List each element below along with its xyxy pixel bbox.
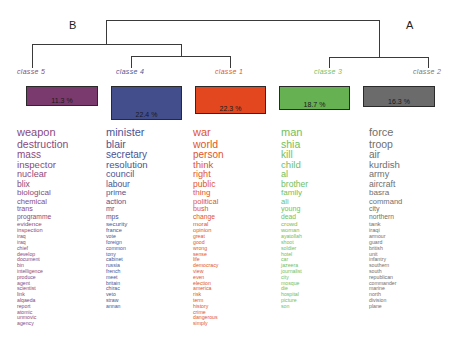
class-box-1: 22.3 %	[195, 86, 266, 114]
class-label-1: classe 1	[215, 68, 243, 75]
word-item: man	[281, 127, 308, 138]
class-label-5: classe 5	[17, 68, 45, 75]
word-item: force	[369, 127, 402, 138]
group-label-b: B	[69, 19, 76, 31]
word-item: destruction	[17, 139, 68, 150]
word-item: annan	[106, 304, 148, 309]
dendrogram-c41-bar	[131, 56, 231, 57]
dendrogram-c5-stem	[32, 44, 33, 68]
dendrogram-c1-stem	[230, 56, 231, 68]
word-list-classe-3: manshiakillchildalbrotherfamilyaliyoungd…	[281, 127, 308, 310]
group-label-a: A	[406, 19, 413, 31]
word-list-classe-5: weapondestructionmassinspectornuclearbli…	[17, 127, 68, 327]
word-item: child	[281, 160, 308, 170]
dendrogram-top-bar	[106, 20, 380, 21]
dendrogram-a-bar	[329, 57, 429, 58]
word-item: plane	[369, 304, 402, 309]
word-item: blair	[106, 139, 148, 150]
dendrogram-c41-stem	[181, 44, 182, 56]
dendrogram-c2-stem	[428, 57, 429, 68]
class-label-3: classe 3	[314, 68, 342, 75]
class-percent-4: 22.4 %	[112, 111, 181, 118]
word-item: document	[17, 257, 68, 262]
word-list-classe-4: ministerblairsecretaryresolutioncouncill…	[106, 127, 148, 310]
class-label-2: classe 2	[413, 68, 441, 75]
word-item: son	[281, 304, 308, 309]
word-item: troop	[369, 139, 402, 150]
word-item: shia	[281, 139, 308, 150]
word-item: minister	[106, 127, 148, 138]
class-percent-2: 16.3 %	[364, 98, 434, 105]
dendrogram-b-bar	[32, 44, 182, 45]
word-item: mass	[17, 150, 68, 160]
class-percent-1: 22.3 %	[196, 105, 265, 112]
word-item: secretary	[106, 150, 148, 160]
word-item: world	[193, 139, 224, 150]
class-label-4: classe 4	[116, 68, 144, 75]
word-item: air	[369, 150, 402, 160]
class-percent-5: 11.3 %	[27, 97, 97, 104]
dendrogram-b-stem	[106, 20, 107, 44]
word-item: person	[193, 150, 224, 160]
word-list-classe-1: warworldpersonthinkrightpublicthingpolit…	[193, 127, 224, 327]
dendrogram-a-stem	[379, 20, 380, 57]
class-box-4: 22.4 %	[111, 86, 182, 120]
dendrogram-c4-stem	[131, 56, 132, 68]
word-item: resolution	[106, 160, 148, 170]
word-item: agency	[17, 321, 68, 326]
word-item: simply	[193, 321, 224, 326]
word-item: inspector	[17, 160, 68, 170]
word-item: kurdish	[369, 160, 402, 170]
word-item: kill	[281, 150, 308, 160]
class-box-2: 16.3 %	[363, 86, 435, 107]
class-box-3: 18.7 %	[279, 86, 350, 110]
word-item: war	[193, 127, 224, 138]
word-item: weapon	[17, 127, 68, 138]
class-percent-3: 18.7 %	[280, 101, 349, 108]
class-box-5: 11.3 %	[26, 86, 98, 106]
word-list-classe-2: forcetroopairkurdisharmyaircraftbasracom…	[369, 127, 402, 310]
dendrogram-c3-stem	[329, 57, 330, 68]
word-item: think	[193, 160, 224, 170]
